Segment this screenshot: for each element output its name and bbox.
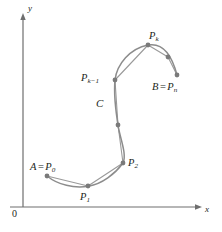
point-label-Pk: Pk (149, 31, 159, 43)
point-dot-Pn (175, 73, 180, 78)
origin-label: 0 (12, 209, 17, 219)
point-label-P0: A=P0 (30, 162, 55, 174)
point-label-P0-eq: = (36, 161, 45, 172)
polygonal-approximation-path (47, 45, 177, 186)
point-dot-Pk (146, 43, 151, 48)
point-dot-Pm (116, 123, 121, 128)
point-label-Pk-sub: k (155, 35, 158, 43)
point-dot-P1 (86, 184, 91, 189)
point-label-Pk1: Pk−1 (81, 73, 99, 85)
curve-label-C: C (96, 98, 103, 109)
y-axis-label: y (28, 4, 32, 13)
point-label-Pn-eq: = (158, 81, 167, 92)
point-dot-Pk1 (113, 78, 118, 83)
x-axis-arrowhead (195, 204, 202, 209)
point-label-P0-sub: 0 (52, 166, 56, 174)
point-label-P2: P2 (128, 158, 138, 170)
x-axis (10, 204, 202, 209)
point-label-Pn: B=Pn (152, 82, 177, 94)
point-label-P1: P1 (80, 192, 90, 204)
point-dot-P2 (121, 161, 126, 166)
point-label-P2-sub: 2 (134, 162, 138, 170)
curve-C-path (47, 45, 177, 187)
point-label-Pn-sub: n (174, 86, 178, 94)
point-dot-P0 (45, 174, 50, 179)
point-label-P1-sub: 1 (86, 196, 90, 204)
point-label-Pk1-sub: k−1 (87, 77, 99, 85)
y-axis-arrowhead (20, 13, 25, 20)
x-axis-label: x (205, 205, 209, 214)
point-dot-Pm2 (166, 55, 171, 60)
y-axis (20, 13, 25, 207)
figure-canvas: y x 0 C A=P0 P1 P2 Pk−1 Pk B=Pn (0, 0, 222, 232)
curve-point-dots (45, 43, 180, 189)
diagram-svg (0, 0, 222, 232)
